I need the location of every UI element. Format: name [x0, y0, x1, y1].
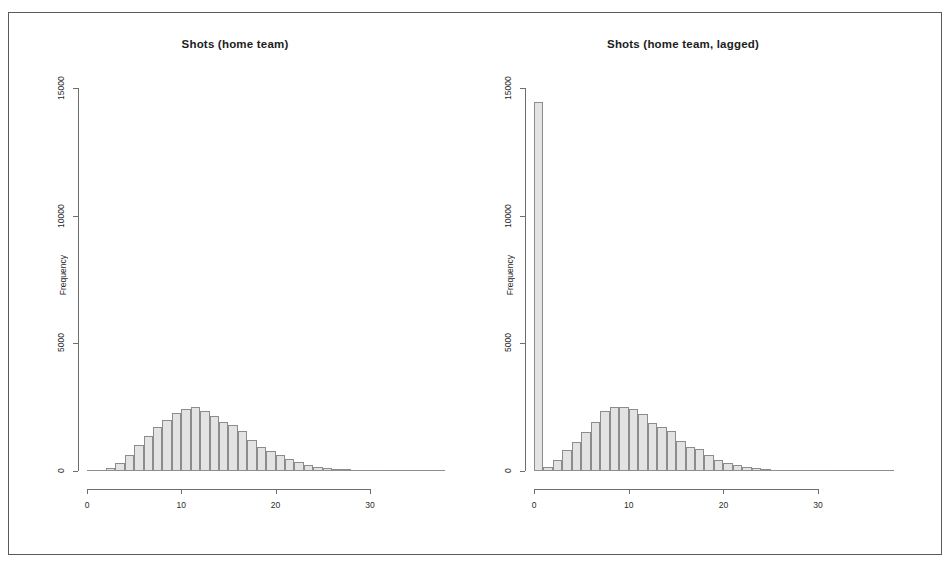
x-axis-tick [181, 489, 182, 494]
histogram-bar [389, 470, 398, 471]
panel-title-left: Shots (home team) [0, 38, 470, 50]
histogram-bar [875, 470, 884, 471]
histogram-bar [610, 407, 619, 471]
histogram-bar [238, 431, 247, 471]
y-axis-tick-label: 5000 [503, 321, 513, 365]
y-axis-tick [520, 343, 525, 344]
histogram-bar [210, 416, 219, 471]
x-axis-tick-label: 20 [710, 500, 736, 510]
y-axis-tick [73, 471, 78, 472]
histogram-bar [436, 470, 445, 471]
x-axis-tick-label: 0 [74, 500, 100, 510]
y-axis-tick [520, 88, 525, 89]
x-axis-tick [276, 489, 277, 494]
histogram-bar [572, 442, 581, 471]
histogram-bar [629, 409, 638, 471]
y-axis-tick-label: 0 [503, 449, 513, 493]
x-axis-tick-label: 30 [805, 500, 831, 510]
x-axis-left [87, 489, 370, 490]
y-axis-title-right: Frequency [505, 255, 515, 295]
histogram-bar [200, 411, 209, 471]
y-axis-tick-label: 10000 [56, 194, 66, 238]
histogram-bar [134, 445, 143, 471]
histogram-bar [417, 470, 426, 471]
histogram-bar [144, 436, 153, 471]
x-axis-tick [818, 489, 819, 494]
histogram-bar [426, 470, 435, 471]
histogram-bar [865, 470, 874, 471]
histogram-bars-left [87, 88, 387, 471]
y-axis-left [78, 88, 79, 471]
histogram-bar [191, 407, 200, 471]
histogram-bar [648, 423, 657, 472]
y-axis-tick [73, 88, 78, 89]
histogram-bar [153, 427, 162, 471]
histogram-bar [181, 409, 190, 471]
histogram-baseline-left [87, 470, 387, 471]
histogram-bar [600, 411, 609, 471]
histogram-bar [228, 425, 237, 471]
histogram-bar [125, 455, 134, 471]
histogram-bar [657, 427, 666, 471]
x-axis-right [534, 489, 818, 490]
x-axis-tick-label: 10 [616, 500, 642, 510]
x-axis-tick-label: 0 [521, 500, 547, 510]
y-axis-tick-label: 0 [56, 449, 66, 493]
x-axis-tick [370, 489, 371, 494]
histogram-bar [704, 455, 713, 471]
histogram-bar [591, 422, 600, 471]
x-axis-tick [723, 489, 724, 494]
figure-canvas: Shots (home team) 050001000015000 Freque… [0, 0, 950, 570]
histogram-bar [856, 470, 865, 471]
y-axis-title-left: Frequency [58, 255, 68, 295]
y-axis-tick-label: 15000 [56, 66, 66, 110]
y-axis-tick [520, 471, 525, 472]
plot-area-right [534, 88, 834, 471]
x-axis-tick-label: 10 [168, 500, 194, 510]
histogram-bar [247, 440, 256, 471]
plot-area-left [87, 88, 387, 471]
y-axis-tick [73, 343, 78, 344]
y-axis-right [525, 88, 526, 471]
histogram-bar [581, 432, 590, 471]
histogram-bar [562, 450, 571, 471]
histogram-bar [408, 470, 417, 471]
histogram-bar [398, 470, 407, 471]
y-axis-tick-label: 15000 [503, 66, 513, 110]
x-axis-tick-label: 20 [263, 500, 289, 510]
y-axis-tick [73, 216, 78, 217]
histogram-bar [534, 102, 543, 471]
histogram-baseline-right [534, 470, 834, 471]
histogram-bar [619, 407, 628, 471]
y-axis-tick-label: 10000 [503, 194, 513, 238]
x-axis-tick [534, 489, 535, 494]
histogram-bar [638, 414, 647, 471]
histogram-bar [686, 447, 695, 471]
histogram-bar [695, 449, 704, 471]
histogram-bar [257, 447, 266, 472]
x-axis-tick-label: 30 [357, 500, 383, 510]
y-axis-tick-label: 5000 [56, 321, 66, 365]
panel-title-right: Shots (home team, lagged) [448, 38, 918, 50]
histogram-bar [667, 431, 676, 471]
histogram-bar [676, 441, 685, 471]
histogram-bar [276, 455, 285, 471]
histogram-bar [172, 413, 181, 471]
x-axis-tick [87, 489, 88, 494]
y-axis-tick [520, 216, 525, 217]
x-axis-tick [629, 489, 630, 494]
histogram-bar [162, 420, 171, 471]
histogram-bars-right [534, 88, 834, 471]
histogram-bar [219, 422, 228, 471]
histogram-bar [847, 470, 856, 471]
histogram-bar [837, 470, 846, 471]
histogram-bar [884, 470, 893, 471]
histogram-bar [266, 451, 275, 471]
